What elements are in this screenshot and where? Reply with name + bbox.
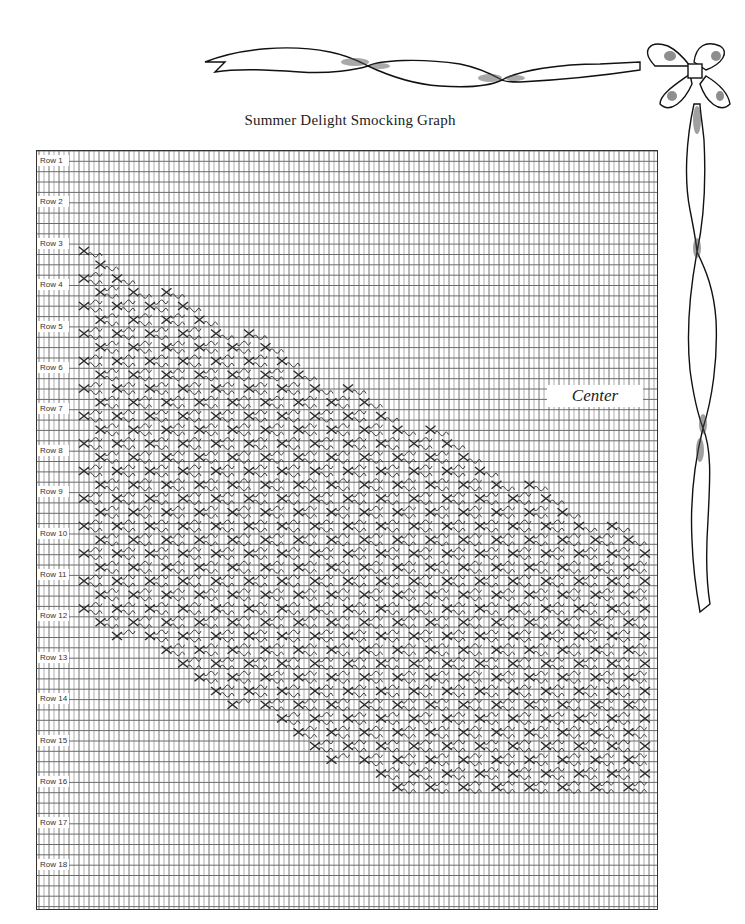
row-label: Row 4 [37,279,69,290]
row-label: Row 18 [37,859,69,870]
row-label: Row 12 [37,610,69,621]
row-label: Row 14 [37,693,69,704]
row-label: Row 17 [37,817,69,828]
center-label: Center [547,385,643,407]
row-label: Row 10 [37,528,69,539]
row-label: Row 1 [37,155,69,166]
row-label: Row 15 [37,735,69,746]
smocking-graph: Row 1Row 2Row 3Row 4Row 5Row 6Row 7Row 8… [36,150,658,910]
row-label: Row 7 [37,403,69,414]
row-label: Row 13 [37,652,69,663]
row-label: Row 11 [37,569,69,580]
graph-grid [37,151,658,910]
graph-title: Summer Delight Smocking Graph [0,112,700,129]
row-label: Row 8 [37,445,69,456]
row-label: Row 5 [37,321,69,332]
row-label: Row 16 [37,776,69,787]
row-label: Row 9 [37,486,69,497]
row-label: Row 3 [37,238,69,249]
row-label: Row 2 [37,196,69,207]
row-label: Row 6 [37,362,69,373]
